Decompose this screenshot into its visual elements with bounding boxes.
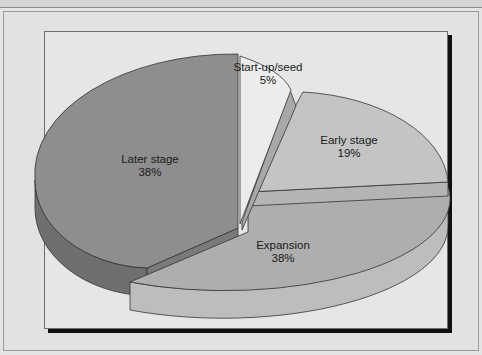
label-expansion-name: Expansion bbox=[256, 239, 310, 252]
label-start-up-seed: Start-up/seed 5% bbox=[233, 61, 302, 87]
label-later-stage: Later stage 38% bbox=[121, 153, 179, 179]
label-early-stage-pct: 19% bbox=[320, 147, 378, 160]
label-later-stage-pct: 38% bbox=[121, 166, 179, 179]
label-expansion-pct: 38% bbox=[256, 252, 310, 265]
pie-chart bbox=[0, 0, 482, 355]
label-expansion: Expansion 38% bbox=[256, 239, 310, 265]
label-start-up-seed-name: Start-up/seed bbox=[233, 61, 302, 74]
label-early-stage: Early stage 19% bbox=[320, 134, 378, 160]
label-later-stage-name: Later stage bbox=[121, 153, 179, 166]
label-start-up-seed-pct: 5% bbox=[233, 74, 302, 87]
label-early-stage-name: Early stage bbox=[320, 134, 378, 147]
